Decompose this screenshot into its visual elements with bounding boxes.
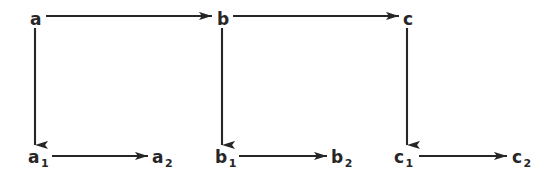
node-base-a1: a — [28, 147, 39, 167]
commutative-diagram-figure: abca1a2b1b2c1c2 — [0, 0, 558, 173]
node-base-a2: a — [152, 147, 163, 167]
node-label-a: a — [30, 11, 41, 28]
node-label-b2: b2 — [331, 149, 352, 166]
node-label-a1: a1 — [28, 149, 48, 166]
node-base-b1: b — [215, 147, 227, 167]
node-subscript-a1: 1 — [41, 157, 50, 170]
arrow-layer — [35, 16, 507, 156]
node-subscript-c1: 1 — [406, 157, 415, 170]
node-base-c2: c — [512, 147, 522, 167]
node-base-a: a — [30, 9, 41, 29]
diagram-canvas — [0, 0, 558, 173]
node-label-c: c — [403, 11, 413, 28]
node-label-a2: a2 — [152, 149, 172, 166]
node-subscript-b1: 1 — [229, 157, 238, 170]
node-base-b: b — [217, 9, 229, 29]
node-base-c1: c — [394, 147, 404, 167]
node-subscript-b2: 2 — [345, 157, 354, 170]
node-label-c1: c1 — [394, 149, 413, 166]
node-subscript-c2: 2 — [524, 157, 533, 170]
node-label-b1: b1 — [215, 149, 236, 166]
node-subscript-a2: 2 — [165, 157, 174, 170]
node-label-b: b — [217, 11, 229, 28]
node-base-b2: b — [331, 147, 343, 167]
node-base-c: c — [403, 9, 413, 29]
node-label-c2: c2 — [512, 149, 531, 166]
